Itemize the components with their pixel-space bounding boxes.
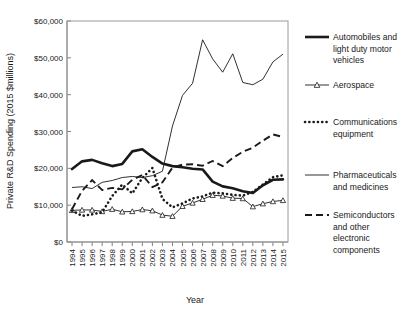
y-axis-title: Private R&D Spending (2015 $millions)	[5, 53, 15, 209]
legend-label: Semiconductors	[333, 210, 395, 220]
chart-legend: Automobiles andlight duty motorvehiclesA…	[305, 32, 397, 255]
chart-svg: Private R&D Spending (2015 $millions) $0…	[0, 0, 412, 311]
x-tick-label: 1996	[88, 248, 97, 266]
x-tick-label: 2003	[158, 248, 167, 266]
x-tick-label: 2013	[259, 248, 268, 266]
y-tick-marks	[67, 21, 71, 242]
y-tick-labels: $0$10,000$20,000$30,000$40,000$50,000$60…	[34, 17, 63, 247]
y-axis-group: Private R&D Spending (2015 $millions) $0…	[5, 17, 71, 247]
x-tick-label: 2002	[148, 248, 157, 266]
x-tick-label: 2005	[179, 248, 188, 266]
x-tick-marks	[72, 242, 283, 246]
x-tick-label: 2001	[138, 248, 147, 266]
x-tick-label: 1997	[98, 248, 107, 266]
y-tick-label: $60,000	[34, 17, 63, 26]
legend-label: equipment	[333, 129, 374, 139]
series-semiconductors	[72, 134, 283, 209]
series-line	[72, 149, 283, 193]
legend-label: components	[333, 245, 380, 255]
legend-label: vehicles	[333, 55, 364, 65]
y-tick-label: $10,000	[34, 201, 63, 210]
data-point-marker	[110, 207, 115, 212]
x-tick-labels: 1994199519961997199819992000200120022003…	[68, 248, 288, 266]
series-line	[72, 134, 283, 209]
y-tick-label: $30,000	[34, 128, 63, 137]
y-tick-label: $40,000	[34, 91, 63, 100]
legend-item-1[interactable]: Automobiles andlight duty motorvehicles	[305, 32, 397, 65]
x-tick-label: 2015	[279, 248, 288, 266]
x-tick-label: 2012	[249, 248, 258, 266]
legend-label: Pharmaceuticals	[333, 170, 397, 180]
y-tick-label: $20,000	[34, 164, 63, 173]
legend-item-5[interactable]: Semiconductorsand otherelectroniccompone…	[305, 210, 395, 255]
x-tick-label: 2010	[229, 248, 238, 266]
x-tick-label: 2008	[209, 248, 218, 266]
chart-figure: Private R&D Spending (2015 $millions) $0…	[0, 0, 412, 311]
x-tick-label: 1999	[118, 248, 127, 266]
x-tick-label: 1995	[78, 248, 87, 266]
y-tick-label: $50,000	[34, 54, 63, 63]
legend-label: Aerospace	[333, 80, 374, 90]
series-automobiles	[72, 149, 283, 193]
legend-label: Communications	[333, 117, 397, 127]
x-tick-label: 2011	[239, 248, 248, 266]
legend-item-2[interactable]: Aerospace	[305, 80, 374, 90]
x-axis-title: Year	[186, 295, 204, 305]
x-tick-label: 2014	[269, 248, 278, 266]
x-tick-label: 2000	[128, 248, 137, 266]
legend-label: Automobiles and	[333, 32, 397, 42]
x-tick-label: 1998	[108, 248, 117, 266]
legend-label: and other	[333, 222, 369, 232]
x-tick-label: 2009	[219, 248, 228, 266]
legend-label: light duty motor	[333, 44, 392, 54]
x-tick-label: 1994	[68, 248, 77, 266]
legend-label: and medicines	[333, 182, 388, 192]
legend-label: electronic	[333, 233, 370, 243]
series-layer	[69, 40, 285, 219]
x-tick-label: 2004	[168, 248, 177, 266]
x-tick-label: 2006	[189, 248, 198, 266]
x-tick-label: 2007	[199, 248, 208, 266]
legend-item-4[interactable]: Pharmaceuticalsand medicines	[305, 170, 397, 192]
x-axis-group: 1994199519961997199819992000200120022003…	[67, 242, 288, 305]
y-tick-label: $0	[54, 238, 63, 247]
legend-item-3[interactable]: Communicationsequipment	[305, 117, 397, 139]
